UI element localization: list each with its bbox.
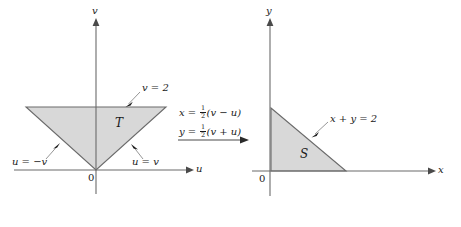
transform-equation-x: x = 12(v − u) [179, 105, 241, 120]
leader-arrowhead-x-plus-y [312, 132, 320, 138]
transform-eq-y-numerator: 1 [200, 124, 206, 131]
transform-eq-y-denominator: 2 [200, 131, 206, 139]
transform-eq-y-rhs: (v + u) [207, 126, 242, 137]
transform-equation-y: y = 12(v + u) [179, 124, 241, 139]
transform-eq-y-equals: = [188, 126, 196, 137]
figure-container: v u 0 T v = 2 u = −v u = v x = 12(v − u)… [0, 0, 461, 227]
origin-label-uv: 0 [88, 173, 94, 183]
y-axis-arrowhead [267, 18, 274, 26]
region-T-label: T [115, 117, 123, 129]
x-axis-arrowhead [428, 168, 436, 175]
leader-line-u-equals-minus-v [46, 147, 57, 160]
region-S-label: S [300, 148, 308, 160]
transform-eq-x-fraction: 12 [200, 105, 206, 120]
origin-label-xy: 0 [259, 174, 265, 184]
leader-line-v-equals-2 [129, 92, 141, 104]
transform-arrow-head [240, 136, 249, 143]
leader-arrowhead-v-equals-2 [126, 102, 133, 107]
transform-eq-x-equals: = [188, 107, 196, 118]
transform-eq-x-denominator: 2 [200, 112, 206, 120]
x-axis-label: x [438, 165, 444, 175]
y-axis-label: y [266, 6, 272, 16]
v-axis-label: v [92, 6, 98, 16]
u-axis-label: u [196, 164, 202, 174]
u-axis-arrowhead [186, 167, 194, 174]
transform-eq-x-lhs: x [179, 107, 185, 118]
annotation-u-equals-v: u = v [132, 157, 159, 167]
annotation-v-equals-2: v = 2 [142, 83, 169, 93]
v-axis-arrowhead [93, 18, 100, 26]
transform-eq-x-numerator: 1 [200, 105, 206, 112]
transform-eq-x-rhs: (v − u) [207, 107, 242, 118]
transform-eq-y-fraction: 12 [200, 124, 206, 139]
annotation-x-plus-y-equals-2: x + y = 2 [330, 114, 377, 124]
leader-arrowhead-u-equals-minus-v [53, 143, 60, 149]
transform-eq-y-lhs: y [179, 126, 185, 137]
leader-line-x-plus-y [315, 122, 328, 134]
annotation-u-equals-minus-v: u = −v [12, 157, 47, 167]
